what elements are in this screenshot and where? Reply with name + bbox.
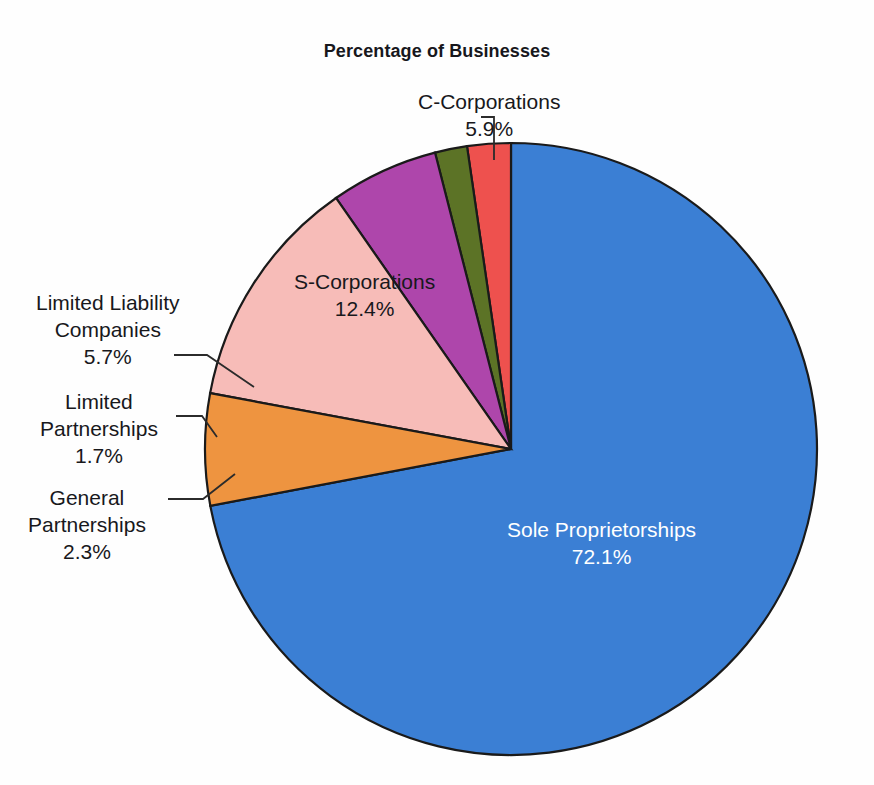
label-limited-liability-companies-line2: Companies [36,316,180,343]
label-limited-liability-companies-value: 5.7% [36,343,180,370]
label-c-corporations-name: C-Corporations [418,90,560,113]
label-general-partnerships-line1: General [50,486,125,509]
label-limited-partnerships-value: 1.7% [40,442,158,469]
label-c-corporations-value: 5.9% [418,115,560,142]
label-general-partnerships-line2: Partnerships [28,511,146,538]
label-limited-partnerships-line1: Limited [65,390,133,413]
label-limited-liability-companies-line1: Limited Liability [36,291,180,314]
label-sole-proprietorships: Sole Proprietorships 72.1% [507,516,696,570]
label-s-corporations-value: 12.4% [294,295,435,322]
label-sole-proprietorships-value: 72.1% [507,543,696,570]
label-s-corporations-name: S-Corporations [294,270,435,293]
label-limited-partnerships: Limited Partnerships 1.7% [40,388,158,469]
chart-canvas: Percentage of Businesses C-Corporations … [0,0,874,785]
label-limited-liability-companies: Limited Liability Companies 5.7% [36,289,180,370]
label-s-corporations: S-Corporations 12.4% [294,268,435,322]
label-general-partnerships: General Partnerships 2.3% [28,484,146,565]
label-limited-partnerships-line2: Partnerships [40,415,158,442]
label-c-corporations: C-Corporations 5.9% [418,88,560,142]
label-sole-proprietorships-name: Sole Proprietorships [507,518,696,541]
label-general-partnerships-value: 2.3% [28,538,146,565]
